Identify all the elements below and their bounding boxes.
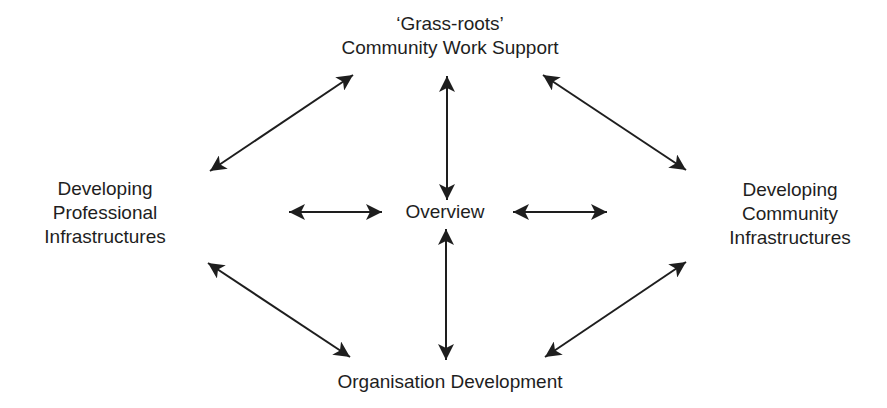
node-label-line: Infrastructures — [690, 226, 887, 250]
arrow-bottom-right — [545, 262, 686, 357]
node-organisation-development: Organisation Development — [290, 370, 610, 394]
node-label-line: Overview — [385, 200, 505, 224]
node-label-line: Developing — [10, 177, 200, 201]
node-overview: Overview — [385, 200, 505, 224]
node-developing-community-infrastructures: Developing Community Infrastructures — [690, 178, 887, 250]
node-developing-professional-infrastructures: Developing Professional Infrastructures — [10, 177, 200, 249]
arrow-top-right — [543, 75, 686, 170]
node-label-line: Community Work Support — [320, 36, 580, 60]
node-label-line: ‘Grass-roots’ — [320, 12, 580, 36]
node-label-line: Developing — [690, 178, 887, 202]
node-label-line: Professional — [10, 201, 200, 225]
arrow-left-bottom — [208, 263, 350, 357]
node-grass-roots-community-work-support: ‘Grass-roots’ Community Work Support — [320, 12, 580, 60]
node-label-line: Community — [690, 202, 887, 226]
node-label-line: Infrastructures — [10, 225, 200, 249]
arrow-left-top — [210, 75, 353, 171]
node-label-line: Organisation Development — [290, 370, 610, 394]
diagram-canvas: ‘Grass-roots’ Community Work Support Dev… — [0, 0, 887, 408]
